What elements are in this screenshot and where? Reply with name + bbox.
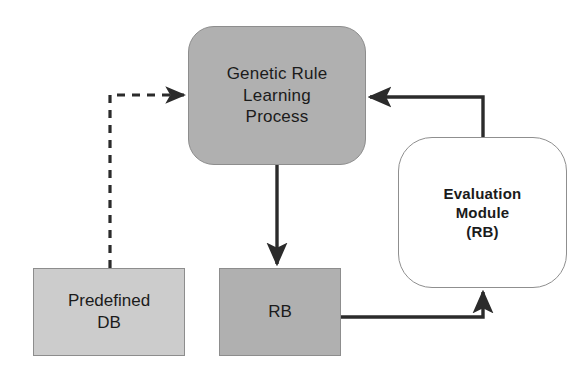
node-predefined-db[interactable]: Predefined DB [33,268,185,356]
node-rb[interactable]: RB [219,268,341,356]
node-genetic-rule-label: Genetic Rule Learning Process [227,63,328,128]
flow-diagram: Genetic Rule Learning Process Evaluation… [0,0,585,377]
node-evaluation-module[interactable]: Evaluation Module (RB) [398,137,567,288]
node-genetic-rule-learning-process[interactable]: Genetic Rule Learning Process [188,26,366,165]
edge-rb-to-evaluation-module [341,292,483,317]
node-predefined-db-label: Predefined DB [68,290,150,334]
node-evaluation-module-label: Evaluation Module (RB) [444,184,522,242]
edge-predefined-db-to-genetic-rule [110,95,184,268]
node-rb-label: RB [268,301,292,323]
edge-evaluation-module-to-genetic-rule [370,97,483,137]
